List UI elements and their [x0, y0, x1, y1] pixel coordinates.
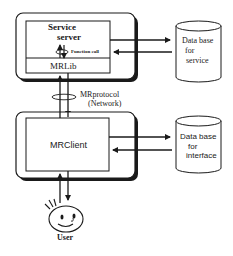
function-call-label: Function call: [71, 49, 99, 54]
db-service-cylinder-icon: [176, 21, 221, 82]
service-server-label-line1: Service: [48, 23, 76, 32]
protocol-label: MRprotocol: [80, 91, 119, 99]
user-label: User: [57, 234, 73, 242]
db-service-label-line2: for: [185, 47, 194, 55]
db-service-label-line1: Data base: [182, 37, 213, 45]
mrclient-label: MRClient: [50, 141, 87, 150]
db-interface-cylinder-icon: [176, 116, 221, 173]
db-interface-label-line1: Data base: [180, 133, 216, 141]
protocol-transport-label: (Network): [88, 100, 121, 108]
user-face-icon: [45, 199, 83, 232]
db-interface-label-line3: interface: [186, 152, 217, 160]
mrlib-label: MRLib: [50, 62, 77, 71]
service-server-label-line2: server: [57, 33, 81, 42]
protocol-ellipse: [52, 94, 76, 100]
db-interface-label-line2: for: [188, 143, 197, 151]
db-service-label-line3: service: [186, 57, 209, 65]
